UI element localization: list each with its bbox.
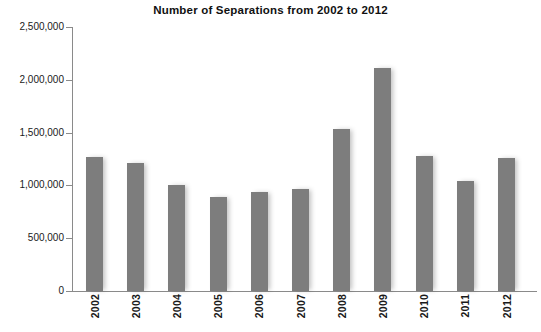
x-axis-tick-label-text: 2006 xyxy=(253,294,265,318)
bar-chart: Number of Separations from 2002 to 2012 … xyxy=(0,0,541,332)
x-axis-tick-label-text: 2005 xyxy=(212,294,224,318)
x-axis-tick-label: 2011 xyxy=(457,294,474,332)
x-axis-tick-label-text: 2010 xyxy=(418,294,430,318)
x-axis-tick-label-text: 2009 xyxy=(377,294,389,318)
bar-2003[interactable] xyxy=(127,163,144,291)
x-axis-tick-label: 2002 xyxy=(86,294,103,332)
bar-2009[interactable] xyxy=(374,68,391,291)
bar-2010[interactable] xyxy=(416,156,433,291)
bar-2012[interactable] xyxy=(498,158,515,291)
y-axis-tick-label-text: 2,000,000 xyxy=(0,74,64,85)
x-axis-tick-label-text: 2012 xyxy=(501,294,513,318)
y-axis-tick-label-text: 1,500,000 xyxy=(0,127,64,138)
y-axis-tick-label: 1,000,000 xyxy=(0,179,64,191)
x-axis-tick-label: 2005 xyxy=(210,294,227,332)
y-axis-tick-label: 1,500,000 xyxy=(0,127,64,139)
bar-2002[interactable] xyxy=(86,157,103,291)
y-axis-tick-label: 500,000 xyxy=(0,232,64,244)
x-axis-tick-label: 2012 xyxy=(498,294,515,332)
x-axis-tick-label-text: 2008 xyxy=(336,294,348,318)
y-axis-tick-label: 2,000,000 xyxy=(0,74,64,86)
x-axis-tick-label: 2009 xyxy=(374,294,391,332)
bar-2007[interactable] xyxy=(292,189,309,291)
x-axis-tick-label: 2010 xyxy=(416,294,433,332)
y-axis-tick xyxy=(66,238,73,239)
bar-2006[interactable] xyxy=(251,192,268,291)
x-axis-tick-label: 2007 xyxy=(292,294,309,332)
x-axis-line xyxy=(72,291,537,292)
x-axis-tick-label-text: 2004 xyxy=(171,294,183,318)
y-axis-tick-label-text: 2,500,000 xyxy=(0,21,64,32)
x-axis-tick-label: 2004 xyxy=(168,294,185,332)
bar-2004[interactable] xyxy=(168,185,185,291)
chart-title: Number of Separations from 2002 to 2012 xyxy=(0,4,541,16)
bar-2011[interactable] xyxy=(457,181,474,291)
bar-2008[interactable] xyxy=(333,129,350,291)
x-axis-tick-label-text: 2003 xyxy=(130,294,142,318)
x-axis-tick-label-text: 2011 xyxy=(459,294,471,318)
y-axis-tick-label-text: 0 xyxy=(0,285,64,296)
y-axis-tick xyxy=(66,185,73,186)
y-axis-tick-label: 0 xyxy=(0,285,64,297)
y-axis-tick xyxy=(66,80,73,81)
x-axis-tick-label: 2006 xyxy=(251,294,268,332)
y-axis-tick xyxy=(66,27,73,28)
bar-2005[interactable] xyxy=(210,197,227,291)
x-axis-tick-label: 2008 xyxy=(333,294,350,332)
y-axis-tick xyxy=(66,133,73,134)
y-axis-tick-label-text: 500,000 xyxy=(0,232,64,243)
y-axis-tick-label: 2,500,000 xyxy=(0,21,64,33)
x-axis-tick-label-text: 2002 xyxy=(89,294,101,318)
y-axis-tick-label-text: 1,000,000 xyxy=(0,179,64,190)
x-axis-tick-label-text: 2007 xyxy=(295,294,307,318)
x-axis-tick-label: 2003 xyxy=(127,294,144,332)
y-axis-tick xyxy=(66,291,73,292)
y-axis-line xyxy=(72,27,73,292)
